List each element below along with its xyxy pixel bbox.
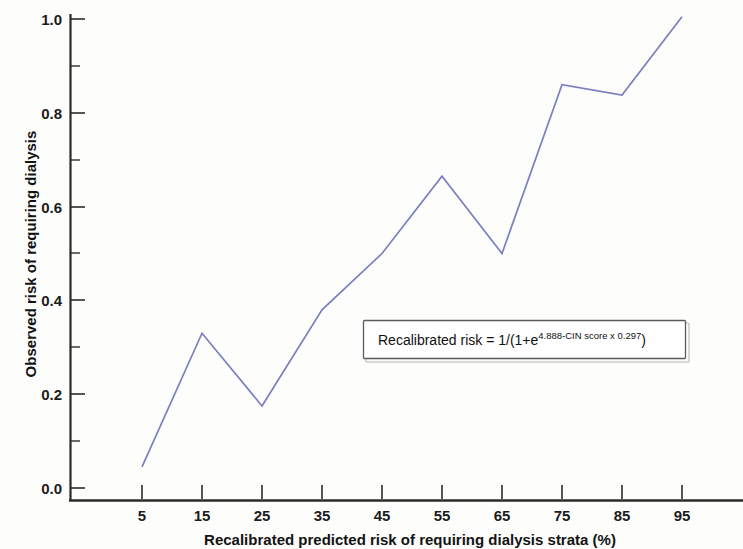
x-tick-label: 35 (314, 507, 331, 524)
x-tick-label: 15 (194, 507, 211, 524)
annotation-box: Recalibrated risk = 1/(1+e4.888-CIN scor… (364, 321, 690, 363)
y-tick-label: 1.0 (41, 11, 62, 28)
x-tick-label: 65 (494, 507, 511, 524)
line-chart: 1.0 0.8 0.6 0.4 0.2 0.0 5 15 25 35 45 (0, 0, 743, 549)
x-tick-label: 45 (374, 507, 391, 524)
y-axis-title: Observed risk of requiring dialysis (22, 131, 39, 378)
x-tick-label: 75 (554, 507, 571, 524)
x-tick-label: 25 (254, 507, 271, 524)
chart-figure: 1.0 0.8 0.6 0.4 0.2 0.0 5 15 25 35 45 (0, 0, 743, 549)
annotation-suffix: ) (641, 332, 646, 348)
y-tick-label: 0.6 (41, 199, 62, 216)
x-tick-label: 55 (434, 507, 451, 524)
y-tick-label: 0.0 (41, 480, 62, 497)
x-tick-label: 95 (674, 507, 691, 524)
x-tick-label: 85 (614, 507, 631, 524)
x-tick-label: 5 (138, 507, 146, 524)
annotation-prefix: Recalibrated risk = 1/(1+e (378, 332, 539, 348)
x-axis-title: Recalibrated predicted risk of requiring… (204, 531, 616, 548)
y-tick-label: 0.4 (41, 292, 63, 309)
y-tick-label: 0.8 (41, 105, 62, 122)
annotation-superscript: 4.888-CIN score x 0.297 (538, 330, 641, 341)
y-tick-label: 0.2 (41, 386, 62, 403)
